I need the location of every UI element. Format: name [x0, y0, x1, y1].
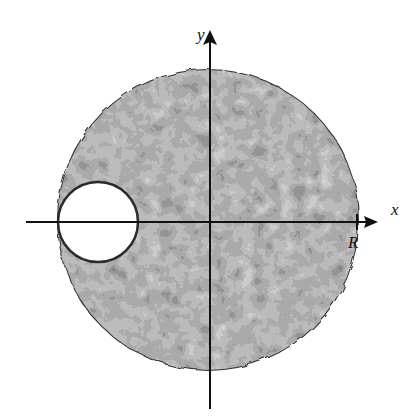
y-axis-label: y — [195, 25, 205, 44]
r-tick-label: R — [347, 233, 359, 252]
disk-with-hole-diagram: x y R — [0, 0, 417, 420]
x-axis-label: x — [390, 200, 399, 219]
x-axis-arrow-icon — [364, 216, 378, 228]
